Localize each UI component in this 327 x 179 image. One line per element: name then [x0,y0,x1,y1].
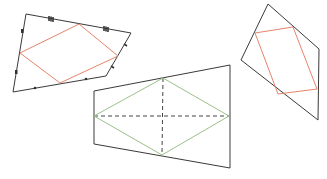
left-right-edge-ticks [111,44,127,68]
diagram-canvas [0,0,327,179]
left-quadrilateral [13,14,131,92]
right-quadrilateral [241,4,319,120]
left-midpoint-parallelogram [20,24,118,83]
right-outer-quadrilateral [241,4,319,120]
right-midpoint-parallelogram [255,27,317,94]
center-vertical-diagonal [162,78,163,155]
left-outer-quadrilateral [13,14,131,92]
center-quadrilateral [94,65,230,168]
